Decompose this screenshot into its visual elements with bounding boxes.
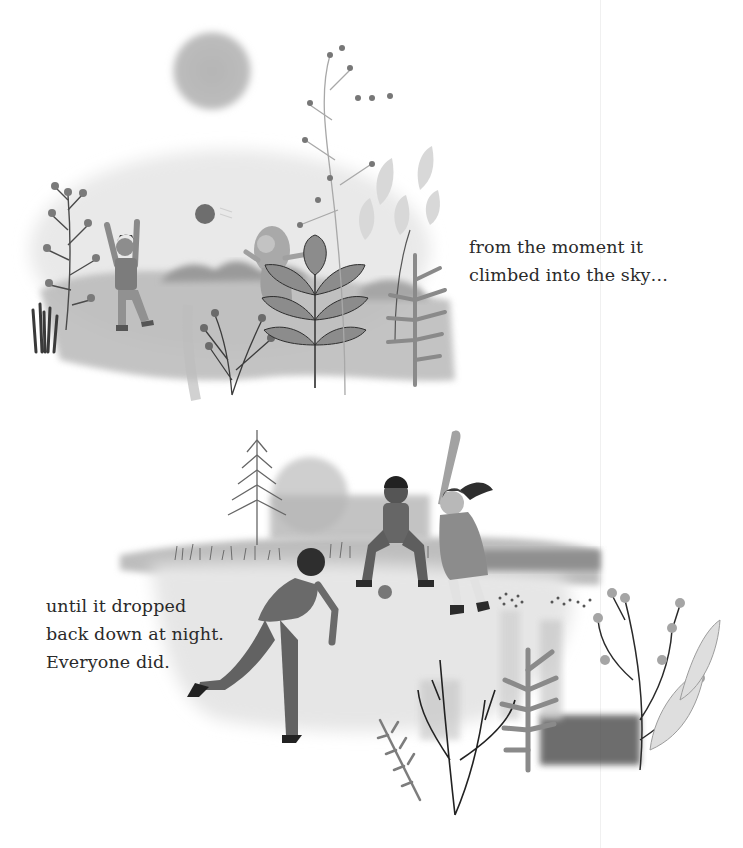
bottom-caption: until it dropped back down at night. Eve… [46, 592, 224, 676]
caption-line: from the moment it [469, 233, 668, 261]
ball-icon-ground [378, 585, 392, 599]
caption-line: climbed into the sky… [469, 261, 668, 289]
top-scene [30, 29, 455, 400]
sun-icon [170, 29, 254, 113]
caption-line: until it dropped [46, 592, 224, 620]
ball-icon [195, 204, 215, 224]
caption-line: back down at night. [46, 620, 224, 648]
top-caption: from the moment it climbed into the sky… [469, 233, 668, 289]
illustrations [0, 0, 743, 848]
caption-line: Everyone did. [46, 648, 224, 676]
